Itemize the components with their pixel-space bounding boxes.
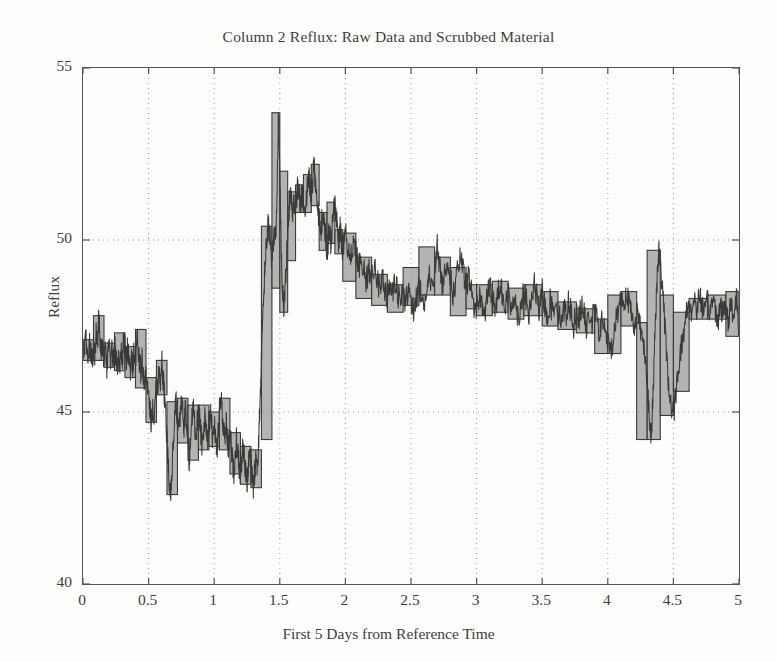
x-tick-label-5: 5 <box>713 591 763 609</box>
x-tick-label-0: 0 <box>57 591 107 609</box>
x-tick-label-4: 4 <box>582 591 632 609</box>
x-tick-label-4.5: 4.5 <box>647 591 697 609</box>
y-axis-label: Reflux <box>45 237 63 357</box>
plot-area[interactable] <box>82 67 740 585</box>
plot-svg <box>83 68 739 584</box>
x-tick-label-1.5: 1.5 <box>254 591 304 609</box>
y-tick-label-55: 55 <box>22 57 72 75</box>
x-axis-label: First 5 Days from Reference Time <box>0 625 777 643</box>
chart-title: Column 2 Reflux: Raw Data and Scrubbed M… <box>0 28 777 46</box>
x-tick-label-2: 2 <box>319 591 369 609</box>
figure-canvas: Column 2 Reflux: Raw Data and Scrubbed M… <box>0 0 777 662</box>
x-tick-label-3.5: 3.5 <box>516 591 566 609</box>
x-tick-label-3: 3 <box>451 591 501 609</box>
y-tick-label-45: 45 <box>22 401 72 419</box>
x-tick-label-2.5: 2.5 <box>385 591 435 609</box>
y-tick-label-40: 40 <box>22 573 72 591</box>
x-tick-label-0.5: 0.5 <box>123 591 173 609</box>
x-tick-label-1: 1 <box>188 591 238 609</box>
y-tick-label-50: 50 <box>22 229 72 247</box>
